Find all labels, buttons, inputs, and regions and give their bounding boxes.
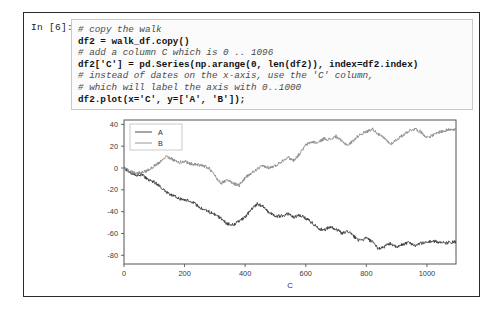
y-tick-label: -60 (107, 229, 118, 238)
y-tick-label: 40 (110, 120, 118, 129)
x-tick-label: 400 (239, 269, 251, 278)
code-input-cell[interactable]: # copy the walk df2 = walk_df.copy() # a… (71, 19, 473, 110)
plot-output-area: 40200-20-40-60-80 02004006008001000 AB C (52, 114, 467, 294)
y-tick-label: 20 (110, 142, 118, 151)
line-chart: 40200-20-40-60-80 02004006008001000 AB C (52, 114, 467, 294)
x-axis-title: C (287, 281, 293, 290)
x-tick-label: 600 (300, 269, 312, 278)
y-tick-label: 0 (114, 164, 118, 173)
x-tick-label: 1000 (419, 269, 435, 278)
code-line: df2.plot(x='C', y=['A', 'B']); (78, 94, 467, 106)
y-tick-label: -80 (107, 251, 118, 260)
code-line: # copy the walk (78, 24, 467, 36)
y-tick-label: -20 (107, 185, 118, 194)
series-line-a (124, 167, 456, 249)
code-line: # instead of dates on the x-axis, use th… (78, 70, 467, 82)
cell-execution-prompt: In [6]: (31, 22, 73, 33)
y-tick-label: -40 (107, 207, 118, 216)
legend-label-a: A (158, 128, 163, 137)
code-line: # add a column C which is 0 .. 1096 (78, 47, 467, 59)
notebook-cell-frame: In [6]: # copy the walk df2 = walk_df.co… (23, 12, 480, 297)
code-line: # which will label the axis with 0..1000 (78, 82, 467, 94)
x-tick-label: 0 (122, 269, 126, 278)
legend-label-b: B (158, 139, 163, 148)
x-tick-label: 200 (178, 269, 190, 278)
legend-box (130, 124, 182, 150)
x-tick-label: 800 (360, 269, 372, 278)
code-line: df2['C'] = pd.Series(np.arange(0, len(df… (78, 59, 467, 71)
code-line: df2 = walk_df.copy() (78, 36, 467, 48)
